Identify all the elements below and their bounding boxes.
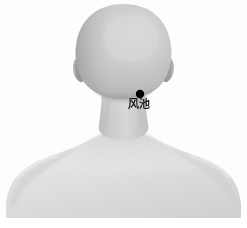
bottom-margin — [0, 218, 247, 228]
grain-overlay — [0, 0, 247, 228]
anatomy-illustration — [0, 0, 247, 228]
acupoint-marker-gb20[interactable] — [136, 90, 144, 98]
acupoint-label-gb20: 风池 — [128, 99, 150, 111]
anatomy-figure: 风池 — [0, 0, 247, 228]
